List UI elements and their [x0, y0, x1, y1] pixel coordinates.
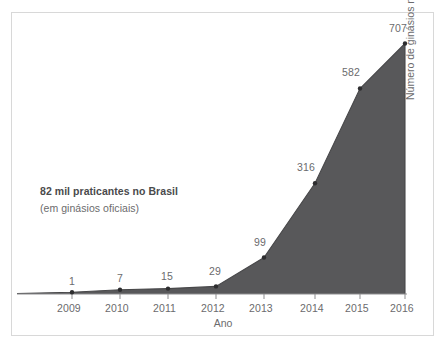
x-tick-label-2010: 2010 — [105, 302, 129, 314]
annotation-subline: (em ginásios oficiais) — [40, 202, 178, 214]
area-chart-plot — [12, 13, 433, 335]
data-point-marker — [70, 290, 74, 294]
x-tick-label-2016: 2016 — [390, 302, 414, 314]
x-axis-title: Ano — [0, 317, 446, 329]
data-point-marker — [313, 181, 317, 185]
x-tick-label-2013: 2013 — [249, 302, 273, 314]
x-tick-label-2015: 2015 — [345, 302, 369, 314]
value-label-2012: 29 — [209, 265, 221, 277]
annotation-headline: 82 mil praticantes no Brasil — [40, 185, 178, 197]
value-label-2010: 7 — [117, 272, 123, 284]
value-label-2009: 1 — [69, 275, 75, 287]
chart-figure: 1 7 15 29 99 316 582 707 2009 2010 2011 … — [0, 0, 446, 346]
data-point-marker — [358, 86, 362, 90]
x-tick-label-2011: 2011 — [153, 302, 176, 314]
data-point-marker — [166, 286, 170, 290]
chart-frame: 1 7 15 29 99 316 582 707 2009 2010 2011 … — [11, 12, 434, 336]
x-axis-ticks — [72, 294, 405, 299]
value-label-2013: 99 — [254, 236, 266, 248]
data-point-marker — [118, 288, 122, 292]
x-tick-label-2012: 2012 — [201, 302, 225, 314]
value-label-2011: 15 — [161, 270, 173, 282]
data-point-marker — [262, 255, 266, 259]
value-label-2014: 316 — [297, 161, 315, 173]
x-tick-label-2009: 2009 — [57, 302, 81, 314]
value-label-2015: 582 — [342, 66, 360, 78]
y-axis-title: Número de ginásios no Brasil — [404, 0, 416, 100]
chart-annotation: 82 mil praticantes no Brasil (em ginásio… — [40, 185, 178, 214]
x-tick-label-2014: 2014 — [300, 302, 324, 314]
data-point-marker — [214, 284, 218, 288]
area-series-fill — [17, 44, 405, 295]
